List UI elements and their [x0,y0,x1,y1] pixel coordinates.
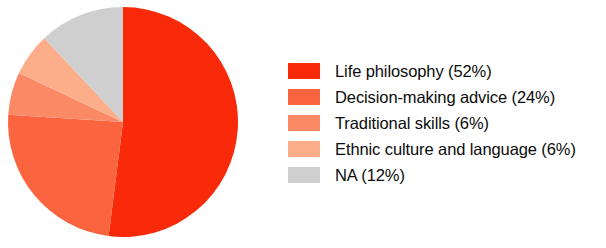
pie-chart-svg [0,0,250,248]
legend-item-label: Decision-making advice (24%) [335,89,555,106]
legend-item-label: Ethnic culture and language (6%) [335,141,576,158]
legend-item-label: NA (12%) [335,167,405,184]
legend-item[interactable]: Decision-making advice (24%) [288,84,606,110]
pie-chart-figure: Life philosophy (52%) Decision-making ad… [0,0,606,248]
pie-slice-group [8,7,238,237]
legend-swatch-icon [288,115,320,131]
legend-swatch-icon [288,63,320,79]
legend-swatch-icon [288,141,320,157]
legend-item-label: Traditional skills (6%) [335,115,489,132]
legend-swatch-icon [288,89,320,105]
legend-item-label: Life philosophy (52%) [335,63,492,80]
legend-item[interactable]: Life philosophy (52%) [288,58,606,84]
chart-legend: Life philosophy (52%) Decision-making ad… [288,58,606,188]
legend-item[interactable]: Traditional skills (6%) [288,110,606,136]
pie-slice[interactable] [8,115,123,236]
pie-slice[interactable] [109,7,238,237]
legend-item[interactable]: NA (12%) [288,162,606,188]
legend-swatch-icon [288,167,320,183]
legend-item[interactable]: Ethnic culture and language (6%) [288,136,606,162]
pie-chart-plot-area [0,0,250,248]
